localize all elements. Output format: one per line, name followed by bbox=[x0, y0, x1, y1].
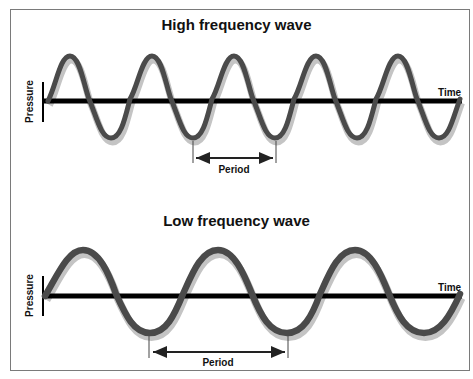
high-frequency-time-label: Time bbox=[438, 87, 461, 98]
low-frequency-time-label: Time bbox=[438, 282, 461, 293]
low-frequency-period-label: Period bbox=[188, 357, 248, 368]
high-frequency-period-label: Period bbox=[204, 164, 264, 175]
high-frequency-wave bbox=[48, 56, 460, 138]
high-frequency-title: High frequency wave bbox=[0, 16, 473, 33]
high-frequency-pressure-label: Pressure bbox=[24, 80, 35, 123]
low-frequency-title: Low frequency wave bbox=[0, 212, 473, 229]
wave-diagram-canvas bbox=[0, 0, 473, 379]
high-frequency-panel bbox=[43, 56, 462, 163]
low-frequency-panel bbox=[43, 250, 462, 358]
low-frequency-pressure-label: Pressure bbox=[24, 274, 35, 317]
